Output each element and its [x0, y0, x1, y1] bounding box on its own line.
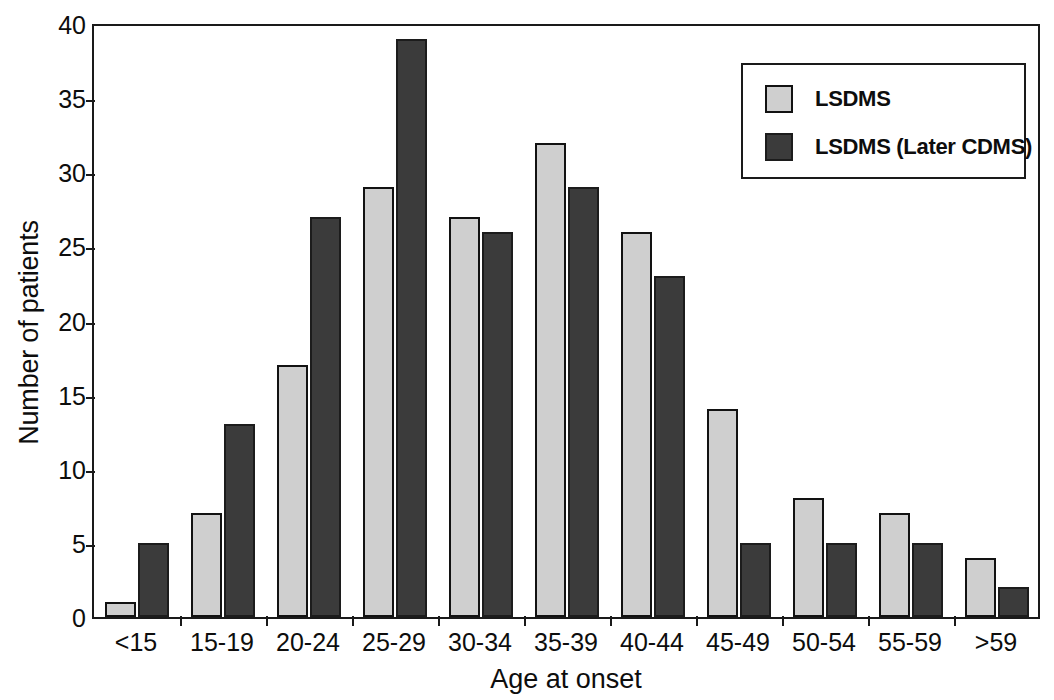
- bar: [621, 232, 652, 617]
- x-axis-tick-mark: [782, 616, 784, 626]
- bar: [277, 365, 308, 617]
- x-axis-title: Age at onset: [92, 664, 1040, 695]
- x-axis-tick-mark: [696, 616, 698, 626]
- x-axis-tick-label: 50-54: [792, 628, 856, 657]
- bar: [654, 276, 685, 617]
- y-axis-tick-label: 15: [6, 383, 86, 408]
- x-axis-tick-mark: [610, 616, 612, 626]
- x-axis-tick-mark: [180, 616, 182, 626]
- bar: [482, 232, 513, 617]
- y-axis-tick-label: 0: [6, 606, 86, 631]
- x-axis-tick-mark: [524, 616, 526, 626]
- bar: [396, 39, 427, 617]
- x-axis-tick-label: 20-24: [276, 628, 340, 657]
- x-axis-tick-labels: <1515-1920-2425-2930-3435-3940-4445-4950…: [92, 628, 1040, 664]
- y-axis-tick-label: 25: [6, 235, 86, 260]
- bar: [793, 498, 824, 617]
- legend-swatch-icon: [765, 85, 793, 113]
- bar: [138, 543, 169, 617]
- legend-entry-label: LSDMS: [815, 86, 891, 112]
- bar: [363, 187, 394, 617]
- y-axis-tick-label: 40: [6, 13, 86, 38]
- y-axis-tick-label: 5: [6, 531, 86, 556]
- bar: [912, 543, 943, 617]
- x-axis-tick-mark: [954, 616, 956, 626]
- y-axis-tick-mark: [86, 100, 95, 102]
- legend-entry-label: LSDMS (Later CDMS): [815, 134, 1032, 160]
- bar: [707, 409, 738, 617]
- x-axis-tick-mark: [352, 616, 354, 626]
- bar: [224, 424, 255, 617]
- y-axis-tick-label: 35: [6, 87, 86, 112]
- x-axis-tick-label: 30-34: [448, 628, 512, 657]
- y-axis-tick-mark: [86, 248, 95, 250]
- x-axis-tick-label: 55-59: [878, 628, 942, 657]
- bar: [826, 543, 857, 617]
- x-axis-tick-label: 25-29: [362, 628, 426, 657]
- x-axis-tick-mark: [438, 616, 440, 626]
- y-axis-tick-mark: [86, 174, 95, 176]
- y-axis-tick-mark: [86, 545, 95, 547]
- bar: [568, 187, 599, 617]
- bar: [965, 558, 996, 617]
- x-axis-tick-mark: [266, 616, 268, 626]
- x-axis-tick-label: 35-39: [534, 628, 598, 657]
- y-axis-tick-labels: 0510152025303540: [0, 0, 86, 700]
- bar: [740, 543, 771, 617]
- y-axis-tick-mark: [86, 471, 95, 473]
- x-axis-tick-label: 45-49: [706, 628, 770, 657]
- x-axis-tick-label: <15: [115, 628, 157, 657]
- bar: [535, 143, 566, 617]
- bar: [191, 513, 222, 617]
- bar: [449, 217, 480, 617]
- chart-legend: LSDMSLSDMS (Later CDMS): [741, 63, 1026, 179]
- x-axis-tick-label: >59: [975, 628, 1017, 657]
- y-axis-tick-mark: [86, 397, 95, 399]
- bar: [105, 602, 136, 617]
- x-axis-tick-label: 40-44: [620, 628, 684, 657]
- x-axis-tick-mark: [868, 616, 870, 626]
- bar: [310, 217, 341, 617]
- x-axis-tick-label: 15-19: [190, 628, 254, 657]
- bar-chart-figure: Number of patients 0510152025303540 <151…: [0, 0, 1054, 700]
- legend-swatch-icon: [765, 133, 793, 161]
- y-axis-tick-label: 10: [6, 457, 86, 482]
- bar: [879, 513, 910, 617]
- bar: [998, 587, 1029, 617]
- y-axis-tick-label: 20: [6, 309, 86, 334]
- legend-entry: LSDMS (Later CDMS): [765, 127, 1024, 167]
- y-axis-tick-mark: [86, 323, 95, 325]
- legend-entry: LSDMS: [765, 79, 1024, 119]
- y-axis-tick-label: 30: [6, 161, 86, 186]
